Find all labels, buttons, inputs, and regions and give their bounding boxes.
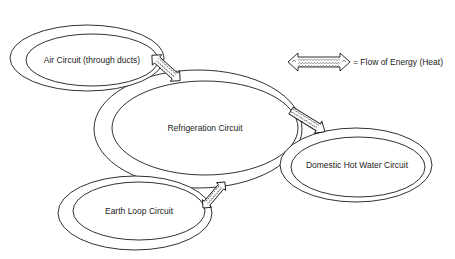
legend: = Flow of Energy (Heat): [288, 53, 443, 71]
refrigeration-circuit: Refrigeration Circuit: [94, 70, 302, 188]
energy-flow-diagram: Refrigeration Circuit Air Circuit (throu…: [0, 0, 455, 259]
legend-wavy-arrow-icon: [288, 53, 350, 71]
domestic-hot-water-circuit: Domestic Hot Water Circuit: [280, 128, 432, 202]
dhw-circuit-label: Domestic Hot Water Circuit: [306, 160, 409, 170]
earth-loop-circuit-label: Earth Loop Circuit: [105, 206, 174, 216]
refrigeration-circuit-label: Refrigeration Circuit: [167, 123, 243, 133]
air-circuit: Air Circuit (through ducts): [10, 25, 164, 91]
legend-label: = Flow of Energy (Heat): [353, 57, 443, 67]
air-circuit-label: Air Circuit (through ducts): [44, 55, 141, 65]
earth-loop-circuit: Earth Loop Circuit: [58, 176, 212, 250]
